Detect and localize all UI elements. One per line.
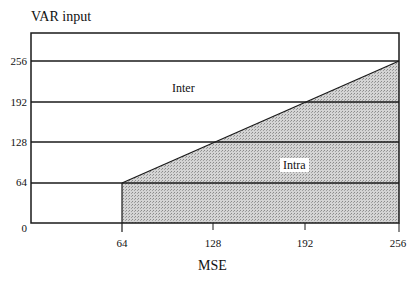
xtick-64: 64 — [107, 238, 137, 249]
xtick-256: 256 — [383, 238, 413, 249]
inter-label: Inter — [172, 82, 195, 94]
ytick-64: 64 — [3, 177, 27, 188]
x-axis-title: MSE — [198, 259, 227, 273]
ytick-192: 192 — [3, 97, 27, 108]
xtick-128: 128 — [198, 238, 228, 249]
ytick-0: 0 — [3, 223, 27, 234]
xtick-192: 192 — [290, 238, 320, 249]
decision-diagram: VAR input 256 192 128 64 0 64 128 192 25… — [0, 0, 417, 283]
y-axis-title: VAR input — [31, 10, 91, 24]
ytick-256: 256 — [3, 56, 27, 67]
ytick-128: 128 — [3, 137, 27, 148]
intra-label: Intra — [280, 158, 309, 172]
